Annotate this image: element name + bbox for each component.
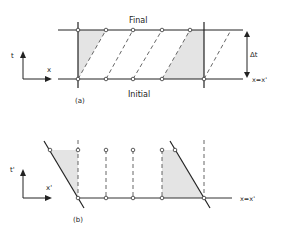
t-axis-label: t — [11, 52, 14, 60]
x-axis-label: x — [47, 66, 51, 74]
initial-label: Initial — [128, 90, 150, 99]
panel-a-label: (a) — [75, 97, 85, 105]
panel-b: x=x' t' x' (b) — [10, 140, 255, 224]
panel-b-label: (b) — [73, 216, 83, 224]
tprime-axis-label: t' — [10, 166, 15, 174]
shaded-region-right-b — [162, 150, 204, 198]
final-label: Final — [129, 16, 147, 25]
delta-t-label: Δt — [250, 51, 258, 59]
x-equals-xprime-label-b: x=x' — [240, 195, 255, 203]
xprime-axis-label: x' — [46, 184, 52, 192]
panel-a: Final Initial Δt x=x' t x (a) — [11, 16, 267, 105]
shaded-region-right — [162, 30, 204, 79]
diagram-canvas: Final Initial Δt x=x' t x (a) — [0, 0, 283, 236]
x-equals-xprime-label-a: x=x' — [252, 76, 267, 84]
